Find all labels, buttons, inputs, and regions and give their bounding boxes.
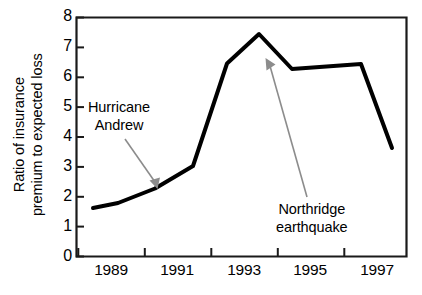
axis-frame-rect [77, 18, 407, 257]
plot-area [0, 0, 422, 295]
arrow-northridge-earthquake [266, 58, 308, 197]
plot-frame [77, 18, 407, 257]
arrow-hurricane-andrew [125, 139, 160, 189]
chart-figure: Ratio of insurance premium to expected l… [0, 0, 422, 295]
arrow-hurricane-andrew-shaft [125, 139, 155, 182]
annotation-arrows [125, 58, 307, 197]
x-axis-ticks [78, 248, 344, 256]
data-line-ratio-insurance-premium [93, 34, 392, 208]
arrow-northridge-earthquake-shaft [270, 66, 307, 197]
